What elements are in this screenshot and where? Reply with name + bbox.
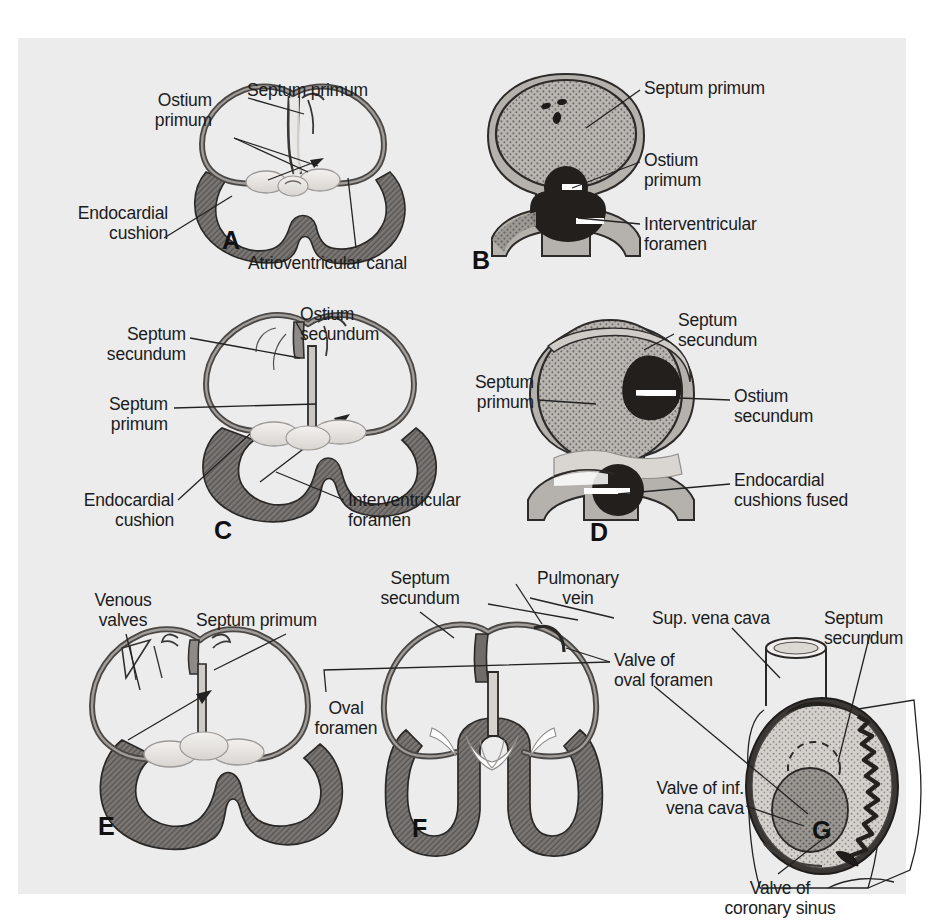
panel-g-leaders (18, 38, 936, 922)
figure-canvas: Ostium primum Septum primum Endocardial … (18, 38, 906, 894)
